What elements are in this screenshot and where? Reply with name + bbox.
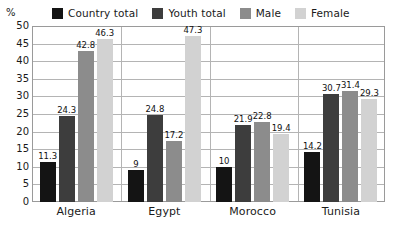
x-axis-category-label: Egypt [120, 205, 208, 218]
bar-value-label: 17.2 [164, 131, 183, 140]
legend-item: Country total [52, 8, 138, 19]
legend-swatch-icon [152, 8, 163, 19]
y-axis-tick-label: 30 [3, 91, 29, 101]
x-axis-category-label: Algeria [32, 205, 120, 218]
x-axis-category-labels: AlgeriaEgyptMoroccoTunisia [32, 205, 385, 218]
bar-value-label: 9 [133, 160, 138, 169]
bar-value-label: 24.3 [57, 106, 76, 115]
legend-item-label: Country total [68, 8, 138, 19]
y-axis-unit-label: % [6, 7, 16, 18]
bar-column: 17.2 [166, 26, 182, 202]
legend-item-label: Male [256, 8, 281, 19]
bar [216, 167, 232, 202]
bar-value-label: 47.3 [183, 26, 202, 35]
y-axis-tick-label: 20 [3, 127, 29, 137]
bar-group-bars: 11.324.342.846.3 [32, 26, 120, 202]
bar-value-label: 14.2 [303, 142, 322, 151]
bar [128, 170, 144, 202]
y-axis-tick-label: 5 [3, 179, 29, 189]
bar-value-label: 10 [219, 157, 230, 166]
bar-column: 30.7 [323, 26, 339, 202]
legend-item: Female [295, 8, 350, 19]
y-axis-tick-label: 25 [3, 109, 29, 119]
bar-column: 24.3 [59, 26, 75, 202]
legend-swatch-icon [240, 8, 251, 19]
y-axis-tick-label: 45 [3, 39, 29, 49]
bar [323, 94, 339, 202]
bar-value-label: 31.4 [341, 81, 360, 90]
bar-group: 11.324.342.846.3 [32, 26, 120, 202]
bar [185, 36, 201, 202]
legend-item-label: Youth total [168, 8, 225, 19]
bar-value-label: 30.7 [322, 84, 341, 93]
bar-group-bars: 1021.922.819.4 [209, 26, 297, 202]
bar-column: 47.3 [185, 26, 201, 202]
bar [147, 115, 163, 202]
bar-groups: 11.324.342.846.3924.817.247.31021.922.81… [32, 26, 385, 202]
legend-item-label: Female [311, 8, 350, 19]
bar [235, 125, 251, 202]
bar [342, 91, 358, 202]
bar-value-label: 42.8 [76, 41, 95, 50]
bar-column: 46.3 [97, 26, 113, 202]
bar-column: 11.3 [40, 26, 56, 202]
bar-column: 24.8 [147, 26, 163, 202]
x-axis-category-label: Tunisia [297, 205, 385, 218]
bar-group: 1021.922.819.4 [209, 26, 297, 202]
bar-group-bars: 14.230.731.429.3 [297, 26, 385, 202]
bar-group-bars: 924.817.247.3 [120, 26, 208, 202]
bar-column: 19.4 [273, 26, 289, 202]
bar-value-label: 29.3 [360, 89, 379, 98]
bar [166, 141, 182, 202]
legend-swatch-icon [52, 8, 63, 19]
bar-column: 42.8 [78, 26, 94, 202]
bar-value-label: 21.9 [234, 115, 253, 124]
bar-column: 9 [128, 26, 144, 202]
bar-column: 10 [216, 26, 232, 202]
chart-legend: Country totalYouth totalMaleFemale [52, 6, 364, 20]
bar [273, 134, 289, 202]
y-axis-tick-labels: 50454035302520151050 [0, 26, 29, 202]
bar [59, 116, 75, 202]
bar-value-label: 22.8 [253, 112, 272, 121]
y-axis-tick-label: 35 [3, 74, 29, 84]
bar-value-label: 11.3 [38, 152, 57, 161]
bar [78, 51, 94, 202]
bar-value-label: 19.4 [272, 124, 291, 133]
bar-group: 924.817.247.3 [120, 26, 208, 202]
legend-swatch-icon [295, 8, 306, 19]
legend-item: Youth total [152, 8, 225, 19]
bar-column: 21.9 [235, 26, 251, 202]
bar-column: 22.8 [254, 26, 270, 202]
bar [361, 99, 377, 202]
bar-chart: % Country totalYouth totalMaleFemale 504… [0, 0, 396, 237]
bar [97, 39, 113, 202]
legend-item: Male [240, 8, 281, 19]
y-axis-tick-label: 15 [3, 144, 29, 154]
y-axis-tick-label: 0 [3, 197, 29, 207]
bar-column: 31.4 [342, 26, 358, 202]
bar-value-label: 24.8 [145, 105, 164, 114]
y-axis-tick-label: 10 [3, 162, 29, 172]
bar [254, 122, 270, 202]
bar-column: 29.3 [361, 26, 377, 202]
y-axis-tick-label: 40 [3, 56, 29, 66]
bar [304, 152, 320, 202]
bar-group: 14.230.731.429.3 [297, 26, 385, 202]
x-axis-category-label: Morocco [209, 205, 297, 218]
bar-column: 14.2 [304, 26, 320, 202]
y-axis-tick-label: 50 [3, 21, 29, 31]
bar-value-label: 46.3 [95, 29, 114, 38]
bar [40, 162, 56, 202]
